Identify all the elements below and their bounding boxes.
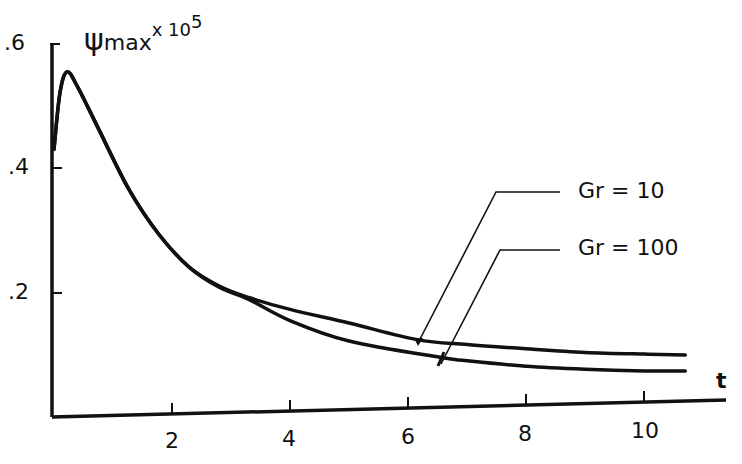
y-subscript: max: [104, 30, 152, 55]
x-tick-label-4: 4: [282, 426, 296, 451]
y-axis-label: ψmaxx 105: [84, 22, 202, 57]
legend-gr-100: Gr = 100: [578, 235, 679, 260]
y-tick-label-02: .2: [8, 279, 29, 304]
x-axis: [52, 400, 726, 417]
x-tick-label-10: 10: [631, 418, 659, 443]
legend-gr-10: Gr = 10: [578, 178, 665, 203]
y-tick-label-06: .6: [4, 30, 25, 55]
y-tick-label-04: .4: [8, 154, 29, 179]
x-tick-label-8: 8: [518, 421, 532, 446]
leader-line-gr-10: [418, 192, 560, 343]
x-tick-label-2: 2: [165, 428, 179, 453]
series-gr-100: [54, 72, 685, 371]
x-axis-label: t: [716, 368, 727, 393]
chart-canvas: [0, 0, 742, 464]
y-multiplier: x 10: [152, 19, 191, 40]
y-symbol: ψ: [84, 22, 104, 57]
y-exponent: 5: [191, 11, 202, 32]
series-gr-10: [54, 72, 685, 355]
x-tick-label-6: 6: [401, 424, 415, 449]
